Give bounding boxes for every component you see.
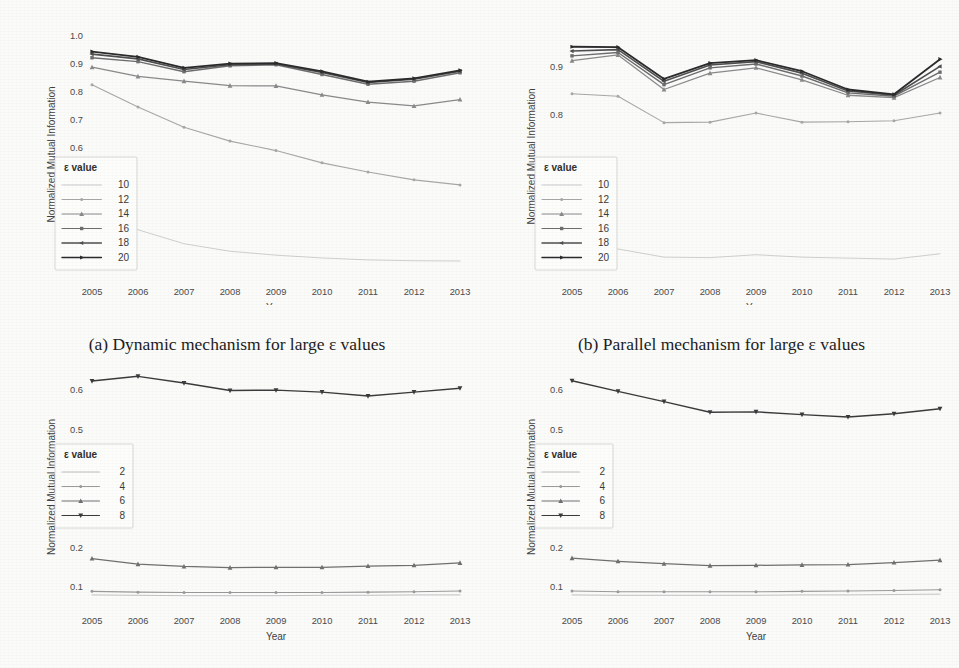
y-tick-label: 0.1 <box>70 582 83 592</box>
x-tick-label: 2007 <box>654 616 675 626</box>
x-tick-label: 2009 <box>266 287 287 297</box>
y-tick-label: 0.5 <box>550 425 563 435</box>
x-axis-ticks: 200520062007200820092010201120122013 <box>562 287 951 297</box>
chart-c: 0.10.20.30.40.50.6Normalized Mutual Info… <box>0 360 479 665</box>
legend-item-label: 16 <box>598 223 610 234</box>
legend-item-label: 2 <box>599 466 605 477</box>
chart-d: 0.10.20.30.40.50.6Normalized Mutual Info… <box>480 360 959 665</box>
series-6 <box>90 556 463 570</box>
y-tick-label: 0.6 <box>70 385 83 395</box>
x-tick-label: 2005 <box>562 287 583 297</box>
series-line <box>572 94 940 123</box>
chart-panel-c: 0.10.20.30.40.50.6Normalized Mutual Info… <box>0 360 479 665</box>
series-10 <box>92 203 460 261</box>
x-tick-label: 2007 <box>654 287 675 297</box>
series-line <box>572 240 940 259</box>
legend-title: ε value <box>544 449 578 460</box>
y-tick-label: 0.8 <box>550 110 563 120</box>
series-18 <box>569 48 941 98</box>
x-tick-label: 2009 <box>746 287 767 297</box>
y-tick-label: 0.2 <box>70 543 83 553</box>
series-12 <box>91 83 462 186</box>
legend: ε value101214161820 <box>535 157 617 270</box>
legend-item-label: 16 <box>118 223 130 234</box>
x-axis-title: Year <box>746 631 767 642</box>
series-20 <box>570 45 942 97</box>
series-14 <box>90 65 463 108</box>
legend-title: ε value <box>544 162 578 173</box>
x-tick-label: 2013 <box>450 287 471 297</box>
x-tick-label: 2007 <box>174 616 195 626</box>
legend-item-label: 20 <box>598 252 610 263</box>
legend-item-label: 10 <box>598 179 610 190</box>
series-4 <box>571 588 942 593</box>
x-tick-label: 2010 <box>792 616 813 626</box>
x-axis-ticks: 200520062007200820092010201120122013 <box>82 287 471 297</box>
x-axis-title: Year <box>266 631 287 642</box>
y-tick-label: 1.0 <box>70 31 83 41</box>
series-line <box>92 203 460 261</box>
series-group <box>570 379 943 596</box>
x-tick-label: 2012 <box>404 616 425 626</box>
legend-item-label: 6 <box>599 495 605 506</box>
x-tick-label: 2010 <box>312 287 333 297</box>
x-tick-label: 2013 <box>930 616 951 626</box>
caption-b: (b) Parallel mechanism for large ε value… <box>480 327 959 361</box>
x-tick-label: 2012 <box>404 287 425 297</box>
series-group <box>89 50 462 261</box>
chart-panel-b: 0.50.60.70.80.9Normalized Mutual Informa… <box>480 0 959 305</box>
legend-item-label: 8 <box>119 510 125 521</box>
x-tick-label: 2012 <box>884 287 905 297</box>
x-tick-label: 2008 <box>700 616 721 626</box>
chart-b: 0.50.60.70.80.9Normalized Mutual Informa… <box>480 0 959 305</box>
series-line <box>572 50 940 96</box>
x-tick-label: 2011 <box>838 616 858 626</box>
series-10 <box>572 240 940 259</box>
x-tick-label: 2009 <box>266 616 287 626</box>
x-tick-label: 2005 <box>562 616 583 626</box>
x-tick-label: 2005 <box>82 287 103 297</box>
legend-title: ε value <box>64 449 98 460</box>
figure-grid: 0.20.30.40.50.60.70.80.91.0Normalized Mu… <box>0 0 959 668</box>
legend-item-label: 8 <box>599 510 605 521</box>
legend-title: ε value <box>64 162 98 173</box>
y-tick-label: 0.7 <box>70 115 83 125</box>
x-tick-label: 2008 <box>700 287 721 297</box>
series-line <box>92 595 460 596</box>
y-tick-label: 0.9 <box>70 59 83 69</box>
x-tick-label: 2008 <box>220 287 241 297</box>
legend-item-label: 6 <box>119 495 125 506</box>
x-tick-label: 2011 <box>358 616 378 626</box>
series-6 <box>570 556 943 568</box>
y-tick-label: 0.8 <box>70 87 83 97</box>
x-tick-label: 2006 <box>608 616 629 626</box>
y-tick-label: 0.2 <box>550 543 563 553</box>
y-tick-label: 0.9 <box>550 62 563 72</box>
chart-a: 0.20.30.40.50.60.70.80.91.0Normalized Mu… <box>0 0 479 305</box>
legend-item-label: 20 <box>118 252 130 263</box>
series-line <box>92 85 460 185</box>
legend-item-label: 12 <box>598 194 610 205</box>
series-4 <box>91 589 462 594</box>
legend-item-label: 10 <box>118 179 130 190</box>
series-2 <box>92 595 460 596</box>
x-tick-label: 2010 <box>312 616 333 626</box>
x-tick-label: 2007 <box>174 287 195 297</box>
x-tick-label: 2013 <box>450 616 471 626</box>
series-8 <box>570 379 943 420</box>
legend-item-label: 18 <box>598 237 610 248</box>
legend-item-label: 4 <box>119 481 125 492</box>
series-8 <box>90 374 463 398</box>
series-group <box>90 374 463 595</box>
legend: ε value2468 <box>55 444 133 528</box>
x-axis-title: Year <box>266 302 287 305</box>
series-line <box>92 376 460 396</box>
legend-item-label: 18 <box>118 237 130 248</box>
x-axis-title: Year <box>746 302 767 305</box>
series-group <box>569 45 942 259</box>
series-line <box>572 594 940 595</box>
legend-item-label: 12 <box>118 194 130 205</box>
y-tick-label: 0.6 <box>70 143 83 153</box>
legend: ε value2468 <box>535 444 613 528</box>
x-axis-ticks: 200520062007200820092010201120122013 <box>82 616 471 626</box>
